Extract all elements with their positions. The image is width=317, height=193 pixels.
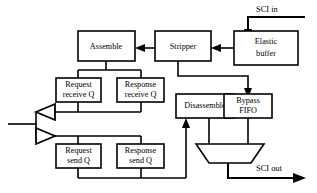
block-label-response-send-q-line2: send Q	[129, 156, 152, 165]
block-stripper[interactable]: Stripper	[155, 31, 211, 61]
wire-assemble-to-receive-queues	[78, 61, 141, 78]
io-label-sci-in: SCI in	[256, 5, 278, 14]
io-label-sci-out: SCI out	[256, 164, 283, 173]
block-label-disassemble: Disassemble	[184, 101, 226, 110]
block-assemble[interactable]: Assemble	[78, 31, 135, 61]
block-label-response-receive-q-line1: Response	[125, 80, 157, 89]
block-request-receive-q[interactable]: Request receive Q	[56, 78, 101, 102]
block-response-send-q[interactable]: Response send Q	[117, 144, 164, 168]
block-label-request-receive-q-line1: Request	[65, 80, 92, 89]
block-label-stripper: Stripper	[170, 42, 197, 51]
block-elastic-buffer[interactable]: Elastic buffer	[234, 31, 298, 65]
block-label-elastic-buffer-line1: Elastic	[255, 37, 278, 46]
block-output-mux[interactable]	[196, 144, 264, 163]
block-label-response-receive-q-line2: receive Q	[125, 90, 157, 99]
sci-block-diagram: Elastic buffer Stripper Assemble Request…	[0, 0, 317, 193]
buffer-receive[interactable]	[36, 104, 55, 120]
block-label-assemble: Assemble	[90, 42, 123, 51]
block-label-request-send-q-line1: Request	[65, 146, 92, 155]
block-label-elastic-buffer-line2: buffer	[256, 49, 276, 58]
block-label-bypass-fifo-line2: FIFO	[239, 106, 257, 115]
block-label-request-receive-q-line2: receive Q	[63, 90, 95, 99]
diagram-canvas: Elastic buffer Stripper Assemble Request…	[0, 0, 317, 193]
block-response-receive-q[interactable]: Response receive Q	[117, 78, 164, 102]
wire-elastic-to-stripper	[211, 44, 234, 52]
block-label-response-send-q-line1: Response	[125, 146, 157, 155]
block-label-bypass-fifo-line1: Bypass	[236, 96, 260, 105]
wire-stripper-to-bypass	[178, 61, 252, 98]
block-bypass-fifo[interactable]: Bypass FIFO	[224, 94, 272, 118]
block-label-request-send-q-line2: send Q	[67, 156, 90, 165]
buffer-send[interactable]	[36, 128, 55, 144]
block-request-send-q[interactable]: Request send Q	[56, 144, 101, 168]
wire-receive-queues-to-buffer	[55, 102, 141, 112]
wire-stripper-to-assemble	[135, 44, 155, 52]
